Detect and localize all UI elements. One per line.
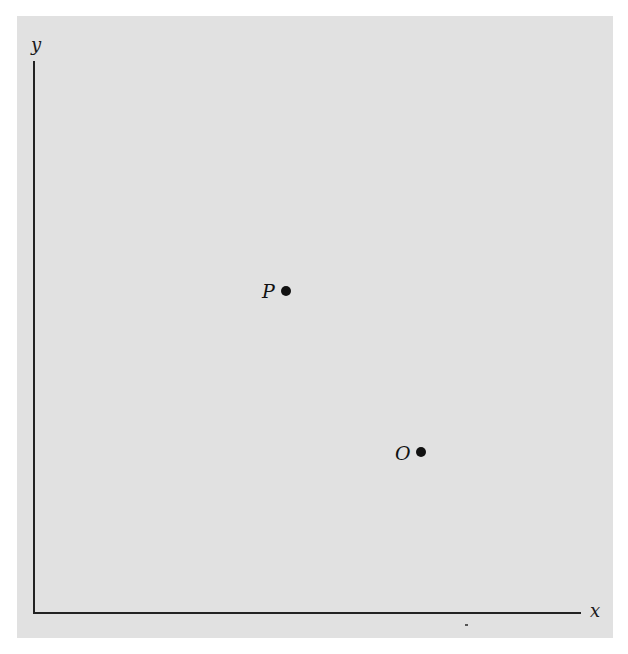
point-o-label: O bbox=[395, 444, 411, 463]
point-o-dot bbox=[416, 447, 426, 457]
diagram-panel bbox=[17, 16, 613, 638]
y-axis-line bbox=[33, 61, 35, 614]
point-p-dot bbox=[281, 286, 291, 296]
point-p-label: P bbox=[262, 282, 275, 301]
x-axis-line bbox=[33, 612, 581, 614]
scan-artifact bbox=[465, 624, 468, 626]
y-axis-label: y bbox=[31, 36, 41, 54]
x-axis-label: x bbox=[590, 602, 600, 620]
